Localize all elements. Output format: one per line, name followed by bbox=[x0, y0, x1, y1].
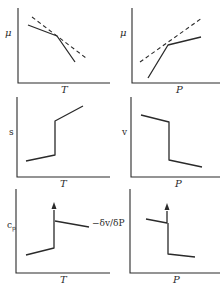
y-axis-label: s bbox=[9, 127, 14, 137]
panel-mu-vs-P: μ P bbox=[120, 8, 220, 95]
y-axis bbox=[130, 189, 220, 273]
x-axis-label: T bbox=[60, 178, 68, 189]
solid-curve bbox=[148, 37, 201, 78]
y-axis-label: μ bbox=[120, 27, 127, 38]
entropy-curve bbox=[26, 106, 83, 161]
x-axis-label: P bbox=[175, 84, 183, 95]
y-axis bbox=[16, 189, 110, 273]
y-axis-label: μ bbox=[5, 27, 12, 38]
panel-mu-vs-T: μ T bbox=[5, 8, 110, 95]
arrow-up-icon bbox=[52, 202, 57, 209]
panel-cp-vs-T: cp T bbox=[7, 189, 110, 285]
heat-capacity-curve-low bbox=[26, 210, 54, 255]
heat-capacity-curve-high bbox=[55, 221, 89, 227]
volume-curve bbox=[141, 115, 202, 167]
dashed-curve bbox=[140, 18, 202, 62]
panel-s-vs-T: s T bbox=[9, 97, 110, 189]
y-axis-label: −δv/δP bbox=[92, 218, 125, 228]
compressibility-curve-low bbox=[146, 211, 167, 223]
y-axis bbox=[131, 97, 220, 177]
compressibility-curve-high bbox=[168, 223, 195, 257]
panel-v-vs-P: v P bbox=[121, 97, 220, 189]
x-axis-label: P bbox=[172, 274, 180, 285]
panel-compressibility-vs-P: −δv/δP P bbox=[92, 189, 220, 285]
y-axis-label: v bbox=[121, 127, 128, 137]
y-axis bbox=[17, 97, 110, 177]
solid-curve bbox=[28, 25, 75, 62]
y-axis-label: cp bbox=[7, 220, 16, 232]
x-axis-label: T bbox=[60, 274, 68, 285]
phase-transition-diagram: μ T μ P s T v P cp T −δv/δP P bbox=[0, 0, 222, 286]
x-axis-label: T bbox=[61, 84, 69, 95]
x-axis-label: P bbox=[174, 178, 182, 189]
y-axis bbox=[132, 8, 220, 83]
dashed-curve bbox=[32, 17, 86, 58]
arrow-up-icon bbox=[165, 203, 170, 210]
